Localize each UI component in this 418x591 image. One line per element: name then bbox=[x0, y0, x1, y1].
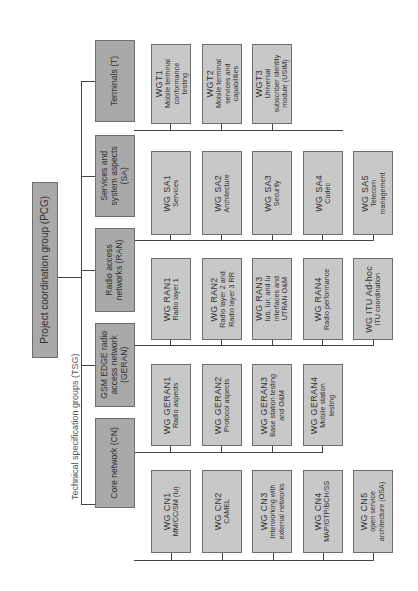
sa-tick bbox=[373, 235, 374, 240]
t-tick bbox=[272, 124, 273, 130]
pcg-connector bbox=[58, 277, 81, 278]
sa-tick bbox=[272, 235, 273, 240]
cn-tick bbox=[323, 553, 324, 560]
cn-tick bbox=[222, 553, 223, 560]
tsg-ran-connector bbox=[81, 270, 95, 271]
tsg-cn-connector bbox=[81, 504, 95, 505]
wg-geran4: WG GERAN4Mobile stationtesting bbox=[303, 364, 343, 446]
sa-tick bbox=[221, 235, 222, 240]
t-tick bbox=[170, 124, 171, 130]
cn-bus bbox=[134, 560, 374, 561]
tsg-caption: Technical specification groups (TSG) bbox=[70, 500, 80, 510]
tsg-geran-connector bbox=[81, 365, 95, 366]
wg-ran3: WG RAN3Iub, Iur, and Iuinterfaces andUTR… bbox=[252, 258, 292, 340]
geran-tick bbox=[272, 446, 273, 452]
ran-tick bbox=[373, 340, 374, 345]
tsg-ran-label: Radio accessnetworks (RAN) bbox=[105, 240, 125, 301]
wg-cn4: WG CN4MAP/GTP/BCH/SS bbox=[303, 470, 343, 553]
tsg-sa-connector bbox=[81, 176, 95, 177]
wg-ran1: WG RAN1Radio layer 1 bbox=[151, 258, 191, 340]
wg-t1: WGT1Mobile terminalconformancetesting bbox=[151, 44, 191, 124]
sa-tick bbox=[170, 235, 171, 240]
sa-bus bbox=[134, 240, 374, 241]
tsg-geran: GSM EDGE radioaccess network(GERAN) bbox=[95, 323, 135, 407]
wg-ran2: WG RAN2Radio layer 2 andRadio layer 3 RR bbox=[202, 258, 242, 340]
geran-tick bbox=[322, 446, 323, 452]
wg-sa1: WG SA1Services bbox=[151, 151, 191, 235]
tsg-geran-label: GSM EDGE radioaccess network(GERAN) bbox=[100, 331, 130, 399]
wg-sa2: WG SA2Architecture bbox=[202, 151, 242, 235]
cn-tick bbox=[373, 553, 374, 560]
pcg-box: Project coordination group (PCG) bbox=[32, 182, 58, 358]
wg-geran1: WG GERAN1Radio aspects bbox=[151, 364, 191, 446]
wg-sa4: WG SA4Codec bbox=[303, 151, 343, 235]
tsg-cn-label: Core network (CN) bbox=[110, 427, 120, 499]
wg-t3: WGT3Universalsubscriber identitymodule (… bbox=[252, 44, 292, 124]
wg-sa3: WG SA3Security bbox=[252, 151, 292, 235]
wg-sa5: WG SA5Telecommanagement bbox=[353, 151, 393, 235]
wg-itu-adhoc: WG ITU Ad-hocITU coordination bbox=[353, 258, 393, 340]
ran-tick bbox=[322, 340, 323, 345]
tsg-services-system-aspects: Services andsystem aspects(SA) bbox=[95, 135, 135, 217]
wg-cn1: WG CN1MM/CC/SM (Iu) bbox=[151, 470, 191, 553]
ran-tick bbox=[221, 340, 222, 345]
tsg-trunk-line bbox=[81, 81, 82, 505]
tsg-radio-access-networks: Radio accessnetworks (RAN) bbox=[95, 228, 135, 312]
wg-geran3: WG GERAN3Base station testingand O&M bbox=[252, 364, 292, 446]
tsg-sa-label: Services andsystem aspects(SA) bbox=[100, 146, 130, 205]
ran-tick bbox=[170, 340, 171, 345]
geran-tick bbox=[221, 446, 222, 452]
t-tick bbox=[221, 124, 222, 130]
ran-bus bbox=[134, 345, 374, 346]
geran-bus bbox=[134, 452, 323, 453]
pcg-label: Project coordination group (PCG) bbox=[39, 196, 51, 344]
wg-geran2: WG GERAN2Protocol aspects bbox=[202, 364, 242, 446]
wg-t2: WGT2Mobile terminalservices andcapabilit… bbox=[202, 44, 242, 124]
cn-tick bbox=[171, 553, 172, 560]
sa-tick bbox=[322, 235, 323, 240]
tsg-core-network: Core network (CN) bbox=[95, 418, 135, 508]
tsg-terminals-label: Terminals (T) bbox=[110, 56, 120, 106]
ran-tick bbox=[272, 340, 273, 345]
geran-tick bbox=[170, 446, 171, 452]
tsg-t-connector bbox=[81, 81, 95, 82]
tsg-terminals: Terminals (T) bbox=[95, 40, 135, 122]
wg-ran4: WG RAN4Radio performance bbox=[303, 258, 343, 340]
wg-cn2: WG CN2CAMEL bbox=[202, 470, 242, 553]
t-bus bbox=[134, 130, 343, 131]
cn-tick bbox=[273, 553, 274, 560]
wg-cn5: WG CN5open servicearchitecture (OSA) bbox=[353, 470, 393, 553]
wg-cn3: WG CN3Interworking withexternal networks bbox=[252, 470, 292, 553]
